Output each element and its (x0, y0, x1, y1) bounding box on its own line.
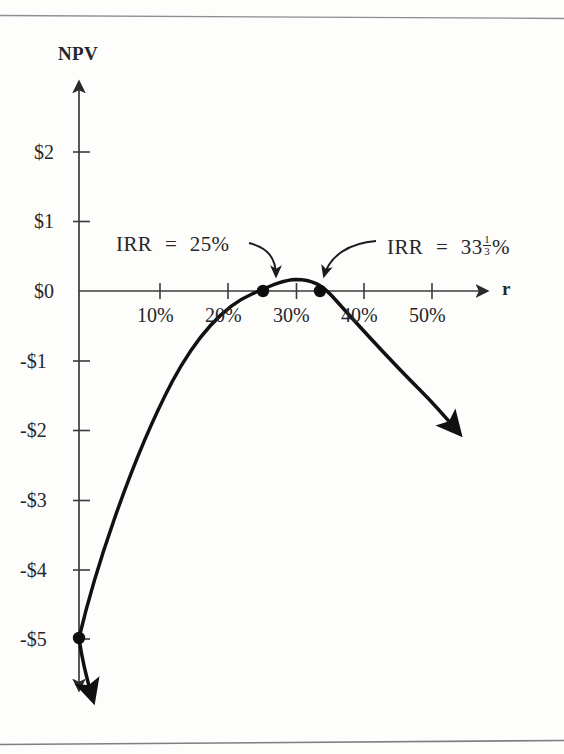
irr-low-leader-arrow (249, 243, 276, 276)
npv-curve (79, 280, 459, 639)
irr-high-annotation: IRR = 3313% (387, 234, 509, 258)
irr-high-percent: % (492, 235, 510, 259)
npv-curve-lower-tail (79, 638, 93, 700)
x-axis-title: r (502, 279, 511, 298)
x-tick-label-20: 20% (205, 305, 242, 325)
irr-high-prefix: IRR (387, 235, 423, 259)
page-rule-bottom (0, 741, 564, 745)
marker-initial-outlay (73, 632, 85, 644)
y-tick-marks (73, 152, 90, 639)
x-tick-label-50: 50% (409, 305, 446, 325)
irr-low-value: 25 (190, 232, 212, 256)
y-tick-label-neg2: -$2 (20, 420, 47, 440)
irr-high-fraction-denominator: 3 (483, 246, 491, 257)
page-rule-top (0, 16, 564, 19)
npv-profile-figure: NPV r $2 $1 $0 -$1 -$2 -$3 -$4 -$5 10% 2… (0, 0, 564, 754)
x-tick-label-40: 40% (341, 305, 378, 325)
irr-high-value: 33 (461, 235, 483, 259)
y-axis-title: NPV (58, 44, 98, 63)
y-tick-label-1: $1 (34, 211, 54, 231)
x-tick-label-30: 30% (273, 305, 310, 325)
y-tick-label-neg3: -$3 (20, 490, 47, 510)
y-tick-label-0: $0 (34, 281, 54, 301)
marker-irr-upper-root (314, 285, 326, 297)
x-tick-label-10: 10% (137, 305, 174, 325)
y-tick-label-neg4: -$4 (20, 560, 47, 580)
y-tick-label-neg5: -$5 (20, 629, 47, 649)
marker-irr-lower-root (257, 285, 269, 297)
irr-high-equals: = (436, 235, 448, 259)
irr-low-equals: = (165, 232, 177, 256)
irr-low-percent: % (212, 232, 230, 256)
irr-low-prefix: IRR (116, 232, 152, 256)
chart-canvas (0, 0, 564, 754)
y-tick-label-2: $2 (34, 142, 54, 162)
irr-low-annotation: IRR = 25% (116, 234, 229, 255)
irr-high-leader-arrow (324, 241, 376, 276)
y-tick-label-neg1: -$1 (20, 351, 47, 371)
irr-high-fraction: 13 (483, 234, 491, 257)
